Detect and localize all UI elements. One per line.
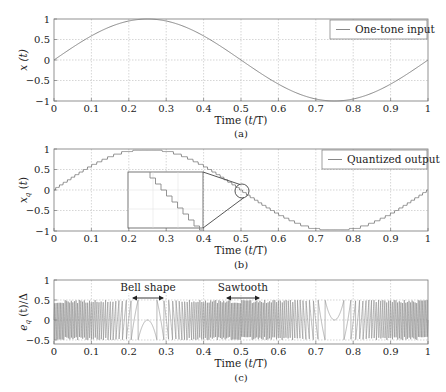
x-tick-label: 0.3 [158, 103, 174, 114]
x-tick-label: 0.2 [121, 346, 137, 357]
y-tick-label: 0.5 [34, 34, 50, 45]
x-tick-label: 0.5 [233, 346, 249, 357]
y-tick-label: −1 [35, 96, 50, 107]
sawtooth-annotation: Sawtooth [218, 281, 269, 293]
y-tick-label: 0 [44, 315, 50, 326]
zoom-circle [235, 184, 249, 198]
y-tick-label: −0.5 [26, 75, 50, 86]
x-tick-label: 1 [425, 346, 431, 357]
x-tick-label: 0.6 [270, 103, 286, 114]
x-tick-label: 1 [425, 233, 431, 244]
x-tick-label: 0.4 [196, 346, 212, 357]
legend-b-label: Quantized output [347, 153, 441, 165]
caption-b: (b) [234, 259, 248, 270]
x-tick-label: 0.6 [270, 233, 286, 244]
x-tick-label: 0.4 [196, 233, 212, 244]
x-tick-label: 0.1 [83, 103, 99, 114]
x-tick-label: 0.7 [308, 346, 324, 357]
x-tick-label: 0.8 [345, 103, 361, 114]
y-tick-label: −0.5 [26, 335, 50, 346]
x-tick-label: 0.1 [83, 233, 99, 244]
y-tick-label: 1 [44, 144, 50, 155]
x-tick-label: 0.8 [345, 346, 361, 357]
caption-a: (a) [234, 128, 248, 139]
x-tick-label: 0 [51, 233, 57, 244]
x-axis-label-a: Time (t/T) [215, 114, 268, 126]
x-tick-label: 1 [425, 103, 431, 114]
x-tick-label: 0.7 [308, 103, 324, 114]
x-tick-label: 0.3 [158, 233, 174, 244]
x-tick-label: 0 [51, 346, 57, 357]
y-tick-label: 0 [44, 185, 50, 196]
x-tick-label: 0.2 [121, 233, 137, 244]
y-axis-label-b: xq (t) [17, 177, 32, 203]
quantization-error-line [54, 300, 428, 340]
x-tick-label: 0.5 [233, 233, 249, 244]
y-tick-label: 1 [44, 275, 50, 286]
chart-a: 00.10.20.30.40.50.60.70.80.9110.50−0.5−1… [17, 14, 436, 140]
y-axis-label-a: x (t) [17, 49, 29, 71]
x-tick-label: 0.1 [83, 346, 99, 357]
y-tick-label: 0.5 [34, 295, 50, 306]
y-tick-label: 1 [44, 14, 50, 25]
chart-b: 00.10.20.30.40.50.60.70.80.9110.50−0.5−1… [17, 144, 441, 271]
zoom-connector-bottom [203, 198, 244, 229]
x-tick-label: 0.9 [383, 233, 399, 244]
zoom-connector-top [203, 172, 240, 185]
x-tick-label: 0.6 [270, 346, 286, 357]
x-tick-label: 0.4 [196, 103, 212, 114]
chart-c: 00.10.20.30.40.50.60.70.80.9110.50−0.5 B… [17, 275, 431, 384]
x-tick-label: 0.5 [233, 103, 249, 114]
x-tick-label: 0.9 [383, 346, 399, 357]
y-tick-label: −1 [35, 226, 50, 237]
y-axis-label-c: eq (t)/Δ [17, 293, 32, 331]
x-tick-label: 0.2 [121, 103, 137, 114]
x-axis-label-c: Time (t/T) [215, 357, 268, 369]
y-tick-label: 0.5 [34, 164, 50, 175]
x-tick-label: 0 [51, 103, 57, 114]
y-tick-label: 0 [44, 55, 50, 66]
y-tick-label: −0.5 [26, 205, 50, 216]
caption-c: (c) [234, 372, 248, 383]
legend-a-label: One-tone input [355, 23, 436, 35]
x-axis-label-b: Time (t/T) [215, 244, 268, 256]
x-tick-label: 0.8 [345, 233, 361, 244]
figure: 00.10.20.30.40.50.60.70.80.9110.50−0.5−1… [0, 0, 446, 392]
bell-shape-annotation: Bell shape [120, 281, 175, 293]
x-tick-label: 0.9 [383, 103, 399, 114]
x-tick-label: 0.3 [158, 346, 174, 357]
x-tick-label: 0.7 [308, 233, 324, 244]
